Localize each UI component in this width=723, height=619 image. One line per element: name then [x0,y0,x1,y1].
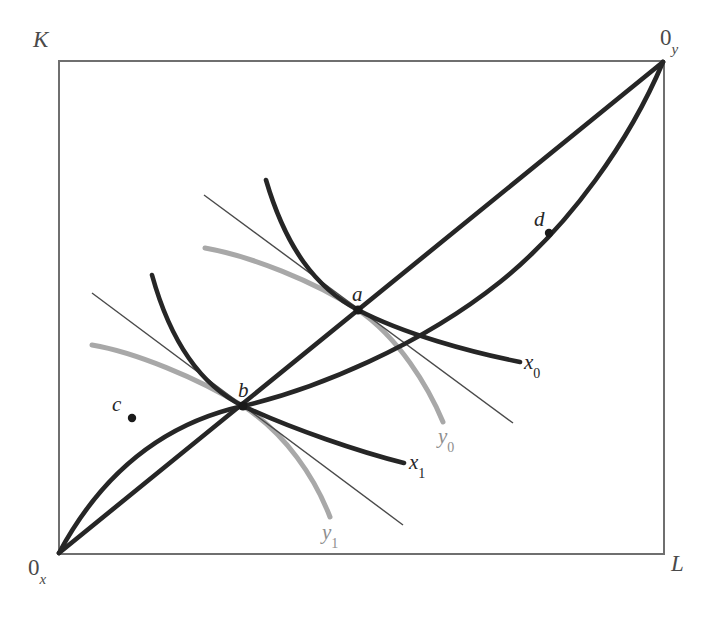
origin-x-base: 0 [28,555,40,580]
curve-label-x1: x1 [409,450,425,478]
curve-label-x1-sub: 1 [418,466,425,481]
curve-label-x0: x0 [524,350,540,378]
curve-label-x1-base: x [409,450,418,474]
point-c-marker [128,414,136,422]
point-d-marker [545,229,553,237]
point-label-a: a [352,282,363,307]
point-label-c: c [112,392,121,417]
diagram-canvas [0,0,723,619]
curve-label-y0: y0 [438,424,454,452]
curve-label-x0-sub: 0 [533,366,540,381]
origin-y-base: 0 [660,25,672,50]
point-label-b: b [238,378,249,403]
origin-y-sub: y [672,41,679,57]
curve-label-y0-base: y [438,424,447,448]
curve-label-y1: y1 [322,520,338,548]
origin-x-sub: x [40,571,47,587]
axis-label-capital: K [33,27,48,53]
edgeworth-box-figure: K L 0x 0y a b c d x0 x1 y0 y1 [0,0,723,619]
point-label-d: d [534,207,545,232]
axis-label-labour: L [671,551,684,577]
curve-label-x0-base: x [524,350,533,374]
curve-label-y1-sub: 1 [331,536,338,551]
origin-label-x: 0x [28,555,46,585]
curve-label-y1-base: y [322,520,331,544]
curve-label-y0-sub: 0 [447,440,454,455]
origin-label-y: 0y [660,25,678,55]
